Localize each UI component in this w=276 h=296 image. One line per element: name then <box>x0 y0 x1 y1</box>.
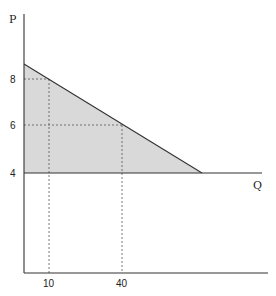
y-tick-6: 6 <box>10 120 16 131</box>
x-axis-label: Q <box>253 179 262 192</box>
y-tick-4: 4 <box>10 168 16 179</box>
x-tick-40: 40 <box>116 278 128 289</box>
chart-canvas: P Q 8 6 4 10 40 <box>0 0 276 296</box>
chart-container: P Q 8 6 4 10 40 <box>0 0 276 296</box>
y-tick-8: 8 <box>10 74 16 85</box>
x-tick-10: 10 <box>43 278 55 289</box>
y-axis-label: P <box>9 13 17 26</box>
